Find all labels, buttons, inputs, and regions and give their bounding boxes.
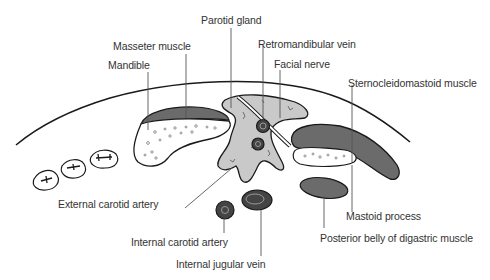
label-internal-carotid-artery: Internal carotid artery <box>131 236 228 248</box>
internal-jugular-vein-shape <box>242 190 272 210</box>
label-retromandibular-vein: Retromandibular vein <box>258 38 356 50</box>
label-masseter-muscle: Masseter muscle <box>113 40 191 52</box>
label-external-carotid-artery: External carotid artery <box>58 198 158 210</box>
internal-carotid-artery-shape <box>216 201 234 219</box>
label-mastoid-process: Mastoid process <box>346 210 421 222</box>
mandible-shape <box>134 119 230 166</box>
external-carotid-artery-shape <box>252 138 264 150</box>
retromandibular-vein-shape <box>257 120 270 133</box>
label-mandible: Mandible <box>108 59 150 71</box>
label-facial-nerve: Facial nerve <box>274 58 330 70</box>
label-posterior-belly-digastric: Posterior belly of digastric muscle <box>320 232 473 244</box>
label-internal-jugular-vein: Internal jugular vein <box>176 258 266 270</box>
teeth <box>33 150 117 190</box>
mastoid-process-shape <box>293 148 356 167</box>
label-parotid-gland: Parotid gland <box>201 14 262 26</box>
label-sternocleidomastoid-muscle: Sternocleidomastoid muscle <box>348 77 477 89</box>
